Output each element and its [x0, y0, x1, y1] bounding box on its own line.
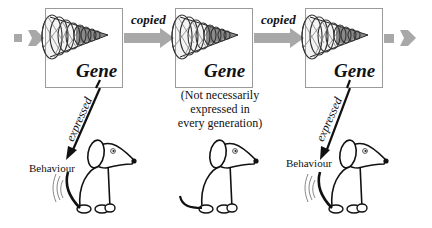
copied-label-2: copied	[261, 12, 296, 28]
behaviour-label-3: Behaviour	[286, 157, 332, 169]
gene-label-2: Gene	[204, 60, 245, 82]
gene-label-1: Gene	[76, 60, 117, 82]
behaviour-label-1: Behaviour	[29, 162, 75, 174]
note-line-2: expressed in	[155, 102, 285, 116]
gene-label-3: Gene	[334, 60, 375, 82]
copied-label-1: copied	[131, 12, 166, 28]
note-line-3: every generation)	[155, 116, 285, 130]
note-line-1: (Not necessarily	[155, 88, 285, 102]
not-expressed-note: (Not necessarily expressed in every gene…	[155, 88, 285, 130]
